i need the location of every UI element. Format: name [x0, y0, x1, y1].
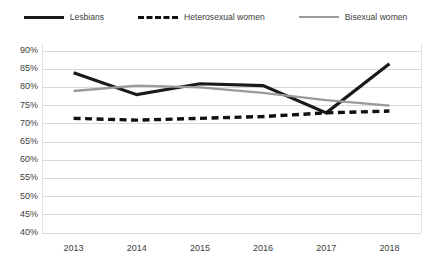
legend-item-lesbians: Lesbians	[24, 12, 104, 23]
legend-label: Lesbians	[70, 13, 104, 22]
line-swatch-icon	[299, 12, 339, 23]
legend-item-heterosexual-women: Heterosexual women	[138, 12, 265, 23]
dashed-line-swatch-icon	[138, 12, 178, 23]
x-axis-tick-label: 2013	[46, 244, 102, 253]
chart-legend: Lesbians Heterosexual women Bisexual wom…	[0, 6, 431, 28]
x-axis-tick-label: 2017	[298, 244, 354, 253]
x-axis-tick-label: 2015	[172, 244, 228, 253]
line-swatch-icon	[24, 12, 64, 23]
x-axis-tick-label: 2016	[235, 244, 291, 253]
legend-item-bisexual-women: Bisexual women	[299, 12, 408, 23]
x-axis-tick-label: 2018	[361, 244, 417, 253]
x-axis-tick-label: 2014	[109, 244, 165, 253]
legend-label: Bisexual women	[345, 13, 408, 22]
line-chart: 90%85%80%75%70%65%60%55%50%45%40% 201320…	[0, 36, 431, 268]
legend-label: Heterosexual women	[184, 13, 265, 22]
x-axis: 201320142015201620172018	[0, 36, 431, 268]
